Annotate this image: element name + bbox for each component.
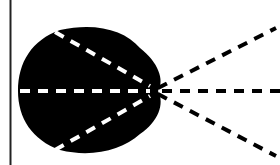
- diagram-canvas: Black rounded lobe with three white dash…: [0, 0, 280, 165]
- outer-ray-lower: [158, 94, 276, 156]
- outer-rays-group: [158, 28, 280, 156]
- beam-diagram: [0, 0, 280, 165]
- outer-ray-upper: [158, 28, 276, 88]
